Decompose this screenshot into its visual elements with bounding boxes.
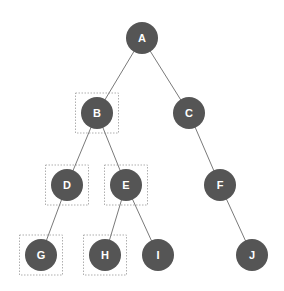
node-label: A <box>138 32 146 44</box>
node-label: D <box>63 179 71 191</box>
node-label: H <box>101 249 109 261</box>
node-label: I <box>156 249 159 261</box>
node-label: F <box>217 179 224 191</box>
tree-node-j: J <box>236 239 268 271</box>
tree-node-h: H <box>89 239 121 271</box>
node-label: G <box>37 249 46 261</box>
node-label: J <box>249 249 255 261</box>
tree-node-c: C <box>173 97 205 129</box>
tree-svg: ABCDEFGHIJ <box>0 0 284 291</box>
tree-nodes: ABCDEFGHIJ <box>25 22 268 271</box>
tree-node-d: D <box>51 169 83 201</box>
tree-edges <box>41 38 252 255</box>
tree-node-a: A <box>126 22 158 54</box>
tree-node-g: G <box>25 239 57 271</box>
node-label: E <box>122 179 129 191</box>
tree-node-i: I <box>142 239 174 271</box>
node-label: B <box>93 107 101 119</box>
tree-node-e: E <box>110 169 142 201</box>
tree-node-f: F <box>204 169 236 201</box>
tree-node-b: B <box>81 97 113 129</box>
node-label: C <box>185 107 193 119</box>
tree-diagram: ABCDEFGHIJ <box>0 0 284 291</box>
